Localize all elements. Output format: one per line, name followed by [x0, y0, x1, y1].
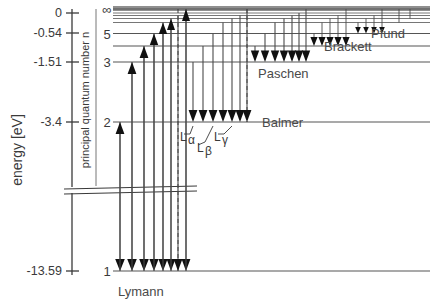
- transition-line-labels: L α L β L γ: [180, 126, 232, 158]
- arrowhead: [189, 110, 198, 122]
- series-label-pfund: Pfund: [371, 26, 405, 41]
- y-tick-label-0: 0: [55, 6, 62, 20]
- label-l-gamma-L: L: [214, 130, 221, 144]
- arrowhead: [288, 51, 296, 63]
- energy-axis: 0 -0.54 -1.51 -3.4 -13.59 energy [eV]: [9, 6, 79, 278]
- level-number-1: 1: [103, 264, 110, 279]
- arrowhead: [302, 51, 310, 63]
- arrowhead: [243, 110, 252, 122]
- arrowhead-up: [128, 62, 137, 74]
- diagram-canvas: 0 -0.54 -1.51 -3.4 -13.59 energy [eV] pr…: [0, 0, 430, 304]
- y-tick-label-34: -3.4: [40, 115, 62, 129]
- label-l-gamma-sub: γ: [222, 133, 228, 147]
- level-number-3: 3: [103, 55, 110, 70]
- arrowhead: [355, 27, 361, 34]
- arrowhead-up: [140, 46, 149, 58]
- series-paschen-transitions: [251, 9, 310, 62]
- level-number-inf: ∞: [102, 2, 111, 17]
- label-l-beta-sub: β: [205, 144, 212, 158]
- arrowhead: [228, 110, 237, 122]
- arrowhead: [261, 51, 269, 63]
- y-tick-label-151: -1.51: [34, 55, 63, 69]
- axis-break: [64, 186, 197, 194]
- arrowhead: [219, 110, 228, 122]
- arrowhead: [363, 27, 369, 34]
- arrowhead: [251, 51, 259, 63]
- arrowhead: [310, 37, 317, 46]
- arrowhead: [209, 110, 218, 122]
- arrowhead: [295, 51, 303, 63]
- series-labels: Pfund Brackett Paschen Balmer Lymann: [118, 26, 405, 299]
- arrowhead-up: [116, 122, 125, 134]
- arrowhead-up: [150, 34, 158, 46]
- series-label-brackett: Brackett: [324, 39, 372, 54]
- arrowhead: [174, 259, 183, 271]
- arrowhead: [280, 51, 288, 63]
- arrowhead: [271, 51, 279, 63]
- label-l-alpha-L: L: [180, 130, 187, 144]
- y-tick-label-054: -0.54: [34, 26, 63, 40]
- series-label-paschen: Paschen: [258, 66, 309, 81]
- arrowhead: [236, 110, 245, 122]
- series-label-balmer: Balmer: [262, 115, 304, 130]
- arrowhead-up: [159, 23, 167, 35]
- absorption-arrows: [116, 9, 190, 271]
- arrowhead-up: [167, 19, 175, 31]
- quantum-number-axis: principal quantum number n ∞ 5 3 2 1: [79, 2, 112, 279]
- quantum-axis-title: principal quantum number n: [79, 32, 91, 168]
- series-label-lymann: Lymann: [118, 284, 164, 299]
- series-balmer-transitions: [189, 9, 252, 122]
- level-number-5: 5: [103, 27, 110, 42]
- label-l-beta-L: L: [197, 141, 204, 155]
- level-number-2: 2: [103, 115, 110, 130]
- energy-axis-title: energy [eV]: [9, 114, 25, 186]
- arrowhead: [199, 110, 208, 122]
- energy-level-diagram: 0 -0.54 -1.51 -3.4 -13.59 energy [eV] pr…: [0, 0, 430, 304]
- y-tick-label-1359: -13.59: [27, 264, 62, 278]
- energy-levels: [113, 6, 430, 271]
- label-l-alpha-sub: α: [188, 133, 195, 147]
